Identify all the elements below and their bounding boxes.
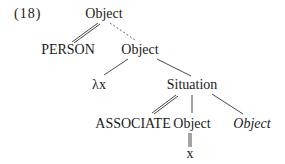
node-person: PERSON bbox=[41, 42, 95, 58]
node-object: Object bbox=[121, 42, 158, 58]
edge-root-person bbox=[72, 23, 100, 43]
edge-object2-lambda bbox=[104, 59, 128, 75]
edge-situation-object-italic bbox=[212, 94, 243, 114]
node-x: x bbox=[187, 146, 194, 162]
edge-situation-associate bbox=[152, 95, 178, 114]
edge-object3-x bbox=[189, 133, 191, 147]
node-object-italic: Object bbox=[233, 116, 270, 132]
node-object-middle: Object bbox=[173, 116, 210, 132]
edge-object2-situation bbox=[157, 59, 191, 76]
node-associate: ASSOCIATE bbox=[95, 116, 170, 132]
example-number: (18) bbox=[14, 6, 41, 22]
node-lambda-x: λx bbox=[92, 77, 106, 93]
tree-edges bbox=[0, 0, 285, 164]
node-root-object: Object bbox=[85, 6, 122, 22]
edge-root-object2 bbox=[110, 23, 135, 40]
node-situation: Situation bbox=[167, 77, 218, 93]
